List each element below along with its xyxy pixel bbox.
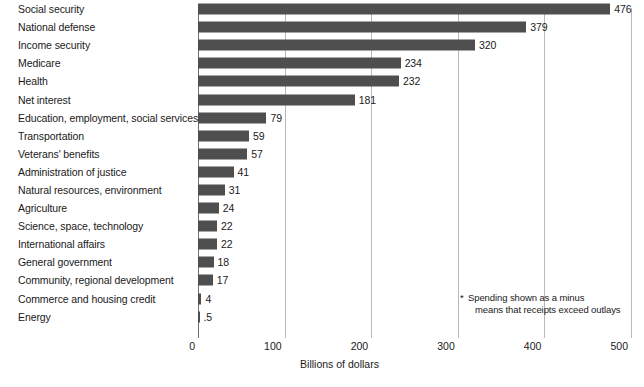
bar [198, 239, 217, 250]
bar [198, 40, 475, 51]
bar [198, 4, 610, 15]
bar-and-value: 41 [198, 166, 249, 177]
bar-category-label: General government [18, 256, 112, 268]
footnote-line-1: Spending shown as a minus [468, 292, 584, 303]
bar-and-value: 59 [198, 130, 265, 141]
x-tick-label-400: 400 [524, 340, 545, 352]
bar [198, 203, 219, 214]
x-tick-label-300: 300 [437, 340, 458, 352]
bar-value-label: 476 [614, 4, 631, 15]
bar-category-label: Commerce and housing credit [18, 293, 155, 305]
x-tick-label-0: 0 [189, 340, 198, 352]
bar-value-label: 59 [253, 130, 264, 141]
bar-and-value: 22 [198, 221, 233, 232]
bar [198, 257, 214, 268]
bar-value-label: 232 [403, 76, 420, 87]
bar-value-label: 379 [530, 22, 547, 33]
bar-and-value: 31 [198, 184, 240, 195]
x-axis-title-text: Billions of dollars [300, 358, 379, 370]
bar-value-label: 41 [238, 166, 249, 177]
bar-category-label: National defense [18, 21, 95, 33]
bar-and-value: 320 [198, 40, 496, 51]
bar-rows: Social security476National defense379Inc… [0, 0, 644, 326]
bar [198, 22, 526, 33]
bar-row: Medicare234 [0, 54, 644, 72]
bar-value-label: 320 [479, 40, 496, 51]
bar-row: Transportation59 [0, 127, 644, 145]
bar [198, 221, 217, 232]
bar-value-label: 57 [251, 148, 262, 159]
bar [198, 94, 355, 105]
bar [198, 166, 234, 177]
bar-category-label: Energy [18, 311, 51, 323]
x-tick-label-100: 100 [264, 340, 285, 352]
bar-value-label: .5 [204, 311, 213, 322]
bar-row: National defense379 [0, 18, 644, 36]
bar-value-label: 31 [229, 184, 240, 195]
bar-category-label: Agriculture [18, 202, 67, 214]
bar-and-value: 22 [198, 239, 233, 250]
bar-row: Veterans' benefits57 [0, 145, 644, 163]
bar [198, 311, 200, 322]
bar-and-value: 79 [198, 112, 282, 123]
bar-category-label: International affairs [18, 238, 105, 250]
bar-value-label: 79 [270, 112, 281, 123]
bar-and-value: .5 [198, 311, 212, 322]
bar-value-label: 18 [218, 257, 229, 268]
bar-category-label: Veterans' benefits [18, 148, 99, 160]
bar [198, 293, 201, 304]
footnote-line-2: means that receipts exceed outlays [475, 304, 621, 315]
bar-category-label: Education, employment, social services [18, 112, 198, 124]
bar [198, 184, 225, 195]
bar [198, 275, 213, 286]
bar-value-label: 234 [405, 58, 422, 69]
bar-value-label: 24 [223, 203, 234, 214]
bar-and-value: 379 [198, 22, 547, 33]
bar-value-label: 22 [221, 239, 232, 250]
bar-category-label: Social security [18, 3, 84, 15]
bar [198, 76, 399, 87]
bar [198, 112, 266, 123]
bar-category-label: Net interest [18, 94, 71, 106]
x-tick-label-200: 200 [351, 340, 372, 352]
bar-value-label: 17 [217, 275, 228, 286]
footnote-marker: * [460, 292, 464, 304]
bar-value-label: 4 [205, 293, 211, 304]
bar-and-value: 17 [198, 275, 228, 286]
bar-and-value: 24 [198, 203, 234, 214]
bar-and-value: 57 [198, 148, 263, 159]
bar [198, 58, 401, 69]
bar-category-label: Transportation [18, 130, 84, 142]
bar-category-label: Natural resources, environment [18, 184, 161, 196]
bar-value-label: 181 [359, 94, 376, 105]
bar [198, 130, 249, 141]
bar-category-label: Community, regional development [18, 274, 173, 286]
bar-row: International affairs22 [0, 235, 644, 253]
bar-row: General government18 [0, 253, 644, 271]
bar-category-label: Medicare [18, 57, 60, 69]
bar-row: Income security320 [0, 36, 644, 54]
bar-row: Natural resources, environment31 [0, 181, 644, 199]
bar-row: Health232 [0, 72, 644, 90]
bar-and-value: 181 [198, 94, 376, 105]
bar-row: Net interest181 [0, 90, 644, 108]
bar-and-value: 232 [198, 76, 420, 87]
footnote-annotation: * Spending shown as a minus means that r… [468, 292, 638, 315]
x-axis-title: Billions of dollars [0, 358, 644, 370]
bar-row: Social security476 [0, 0, 644, 18]
x-tick-label-500: 500 [610, 340, 631, 352]
bar-row: Agriculture24 [0, 199, 644, 217]
bar-row: Education, employment, social services79 [0, 109, 644, 127]
x-axis: 0100200300400500 [198, 338, 631, 354]
bar-value-label: 22 [221, 221, 232, 232]
bar-category-label: Science, space, technology [18, 220, 143, 232]
bar-row: Science, space, technology22 [0, 217, 644, 235]
bar-row: Administration of justice41 [0, 163, 644, 181]
bar-and-value: 18 [198, 257, 229, 268]
bar-and-value: 4 [198, 293, 211, 304]
bar-category-label: Administration of justice [18, 166, 126, 178]
bar-chart: Social security476National defense379Inc… [0, 0, 644, 387]
bar-row: Community, regional development17 [0, 271, 644, 289]
bar-category-label: Income security [18, 39, 90, 51]
bar-and-value: 234 [198, 58, 422, 69]
